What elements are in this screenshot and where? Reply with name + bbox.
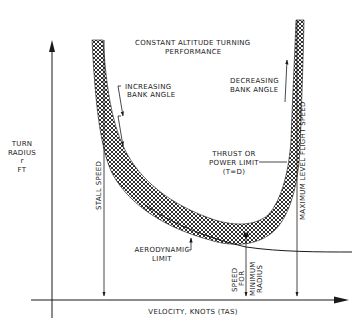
svg-text:THRUST OR: THRUST OR: [211, 150, 256, 158]
svg-text:RADIUS: RADIUS: [8, 149, 36, 157]
svg-text:INCREASING: INCREASING: [125, 83, 171, 91]
decreasing-bank-annotation: DECREASING BANK ANGLE: [230, 60, 287, 102]
min-radius-speed-label-2: FOR: [238, 271, 246, 286]
turning-performance-diagram: STALL SPEED MAXIMUM LEVEL FLIGHT SPEED S…: [0, 0, 364, 335]
increasing-bank-annotation: INCREASING BANK ANGLE: [118, 83, 175, 146]
svg-text:FT: FT: [18, 166, 27, 174]
y-axis-arrow-icon: [49, 40, 55, 52]
svg-text:(T=D): (T=D): [223, 168, 246, 176]
x-axis-arrow-icon: [334, 297, 349, 304]
min-radius-point: [244, 233, 249, 238]
svg-text:TURN: TURN: [11, 140, 33, 148]
diagram-title-line1: CONSTANT ALTITUDE TURNING: [135, 39, 251, 47]
svg-text:AERODYNAMIC: AERODYNAMIC: [134, 246, 189, 254]
thrust-limit-annotation: THRUST OR POWER LIMIT (T=D): [209, 150, 287, 176]
svg-text:DECREASING: DECREASING: [230, 77, 279, 85]
x-axis-label: VELOCITY, KNOTS (TAS): [148, 308, 237, 316]
stall-speed-label: STALL SPEED: [95, 161, 103, 210]
increasing-bank-arrow: [118, 86, 123, 116]
aero-limit-annotation: AERODYNAMIC LIMIT: [134, 238, 191, 263]
y-axis-label: TURN RADIUS r FT: [8, 140, 36, 174]
svg-text:r: r: [20, 157, 23, 165]
svg-text:POWER LIMIT: POWER LIMIT: [209, 159, 259, 167]
decreasing-bank-arrow: [285, 60, 287, 102]
y-axis: [49, 40, 55, 318]
max-speed-label: MAXIMUM LEVEL FLIGHT SPEED: [299, 101, 307, 220]
min-radius-speed-label-4: RADIUS: [256, 265, 264, 293]
svg-text:BANK ANGLE: BANK ANGLE: [230, 86, 278, 94]
svg-text:LIMIT: LIMIT: [152, 255, 172, 263]
diagram-title-line2: PERFORMANCE: [165, 48, 222, 56]
svg-text:BANK ANGLE: BANK ANGLE: [127, 91, 175, 99]
x-axis: [31, 297, 349, 304]
